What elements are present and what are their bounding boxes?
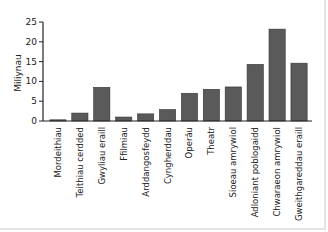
y-tick-label: 0 [31, 116, 37, 126]
y-axis-label: Miliynau [13, 54, 23, 92]
x-category-label: Theatr [206, 127, 216, 156]
bar [138, 114, 154, 121]
x-category-label: Chwaraeon amrywiol [272, 127, 282, 217]
x-category-label: Operâu [184, 127, 194, 158]
bar [203, 89, 219, 121]
bars [50, 29, 307, 121]
x-category-label: Sioeau amrywiol [228, 127, 238, 197]
y-tick-label: 25 [26, 17, 37, 27]
bar [291, 63, 307, 121]
bar [247, 64, 263, 121]
x-category-label: Ffilmiau [119, 127, 129, 161]
bar [159, 110, 175, 121]
bar [181, 93, 197, 121]
y-tick-label: 10 [26, 76, 38, 86]
y-tick-label: 20 [26, 37, 38, 47]
x-axis-labels: MordeithiauTeithiau cerddedGwyliau erail… [53, 127, 304, 222]
y-axis: 0510152025 [26, 17, 43, 126]
x-category-label: Gwyliau eraill [97, 127, 107, 185]
x-category-label: Gweithgareddau eraill [294, 127, 304, 221]
x-category-label: Mordeithiau [53, 127, 63, 178]
x-category-label: Cyngherddau [163, 127, 173, 184]
y-tick-label: 5 [31, 96, 37, 106]
x-category-label: Arddangosfeydd [141, 127, 151, 197]
bar [225, 87, 241, 121]
x-category-label: Adloniant poblogaidd [250, 127, 260, 217]
bar [72, 113, 88, 121]
y-tick-label: 15 [26, 57, 37, 67]
bar [94, 87, 110, 121]
bar [269, 29, 285, 121]
x-category-label: Teithiau cerdded [75, 127, 85, 198]
bar-chart: Miliynau 0510152025 MordeithiauTeithiau … [0, 0, 328, 232]
